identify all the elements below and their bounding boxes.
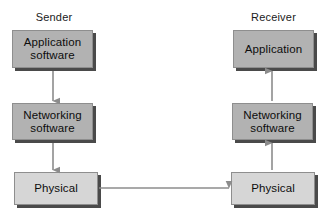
node-receiver-networking: Networking software <box>232 103 313 140</box>
node-receiver-application: Application <box>233 30 314 68</box>
node-sender-networking-label: Networking software <box>13 109 92 135</box>
node-receiver-application-label: Application <box>243 43 304 56</box>
node-sender-physical-label: Physical <box>32 182 80 195</box>
node-receiver-physical-label: Physical <box>249 182 297 195</box>
node-sender-networking: Networking software <box>12 103 93 140</box>
node-sender-physical: Physical <box>14 172 98 205</box>
node-receiver-networking-label: Networking software <box>233 109 312 135</box>
node-sender-application-label: Application software <box>13 36 92 62</box>
layer-flow-diagram: Sender Receiver Application software Net… <box>0 0 330 220</box>
node-sender-application: Application software <box>12 30 93 68</box>
sender-column-title: Sender <box>12 11 96 23</box>
node-receiver-physical: Physical <box>231 172 315 205</box>
receiver-column-title: Receiver <box>233 11 314 23</box>
